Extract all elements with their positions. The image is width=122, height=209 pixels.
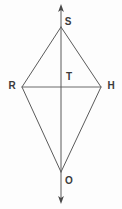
vertex-label-O: O	[65, 176, 73, 186]
vertex-label-R: R	[8, 81, 15, 91]
vertex-label-S: S	[65, 17, 72, 27]
edge-R-O	[22, 87, 61, 172]
edge-H-O	[61, 87, 101, 172]
kite-diagram: S R T H O	[0, 0, 122, 209]
vertex-label-H: H	[107, 81, 114, 91]
vertex-label-T: T	[66, 72, 72, 82]
edge-S-R	[22, 27, 61, 87]
diagram-canvas	[0, 0, 122, 209]
